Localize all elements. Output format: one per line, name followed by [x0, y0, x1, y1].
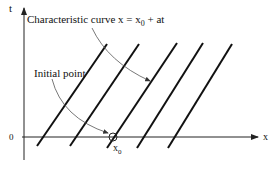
- x0-label: x0: [113, 142, 122, 156]
- origin-label: 0: [9, 132, 14, 142]
- characteristic-line: [107, 43, 177, 148]
- x-axis-label: x: [263, 131, 268, 142]
- characteristic-line: [168, 44, 232, 148]
- characteristic-line: [137, 43, 203, 148]
- t-axis-label: t: [9, 2, 12, 14]
- characteristics-diagram: t x 0 Characteristic curve x = x0 + at I…: [0, 0, 273, 170]
- characteristic-lines: [37, 43, 232, 148]
- characteristic-line: [37, 44, 107, 146]
- initial-point-label: Initial point: [34, 67, 86, 79]
- characteristic-curve-label: Characteristic curve x = x0 + at: [27, 13, 164, 28]
- characteristic-line: [70, 44, 139, 146]
- initial-point-annotation-arrow: [52, 79, 108, 133]
